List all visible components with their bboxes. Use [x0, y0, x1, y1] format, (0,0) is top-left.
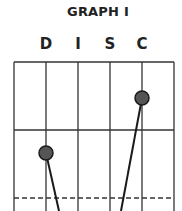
- grid: [14, 62, 174, 211]
- data-point-c: [135, 91, 149, 105]
- data-lines: [46, 98, 142, 211]
- line-from-d: [46, 153, 59, 211]
- line-from-c: [121, 98, 142, 211]
- data-point-d: [39, 146, 53, 160]
- chart-plot: [0, 0, 182, 211]
